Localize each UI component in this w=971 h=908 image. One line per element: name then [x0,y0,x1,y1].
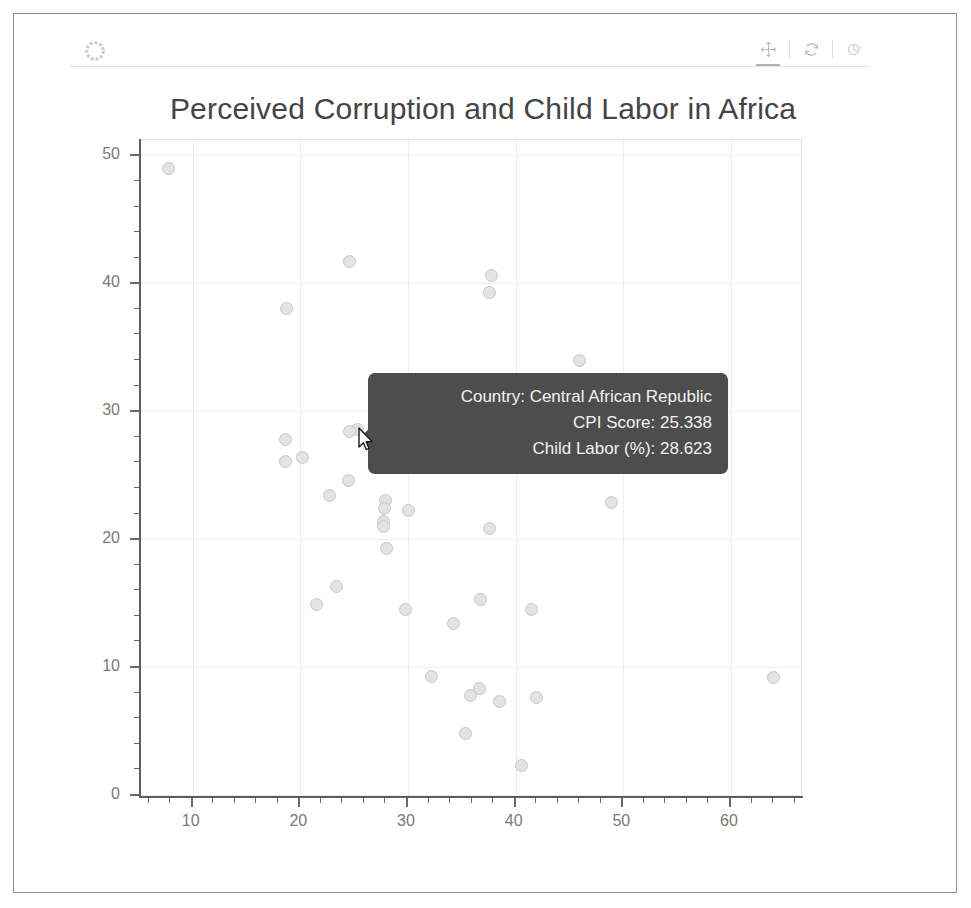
x-tick-major [406,798,408,807]
x-axis-tick-label: 50 [591,812,651,830]
y-tick-minor [134,308,139,309]
scatter-point[interactable] [483,522,496,535]
x-axis-tick-label: 10 [161,812,221,830]
move-cross-icon [759,40,778,59]
bokeh-logo-icon [84,40,106,62]
scatter-point[interactable] [279,455,292,468]
x-tick-minor [320,798,321,803]
y-axis-tick-label: 20 [80,529,120,547]
x-tick-minor [234,798,235,803]
x-tick-minor [363,798,364,803]
scatter-point[interactable] [296,451,309,464]
y-tick-minor [134,589,139,590]
scatter-point[interactable] [402,504,415,517]
save-tool-button[interactable] [838,34,870,64]
y-axis-tick-label: 10 [80,657,120,675]
toolbar-divider [70,66,870,67]
y-tick-minor [134,231,139,232]
scatter-point[interactable] [380,542,393,555]
scatter-point[interactable] [343,255,356,268]
x-tick-minor [772,798,773,803]
y-axis-labels: 01020304050 [72,139,120,797]
scatter-point[interactable] [343,425,356,438]
x-tick-minor [535,798,536,803]
pan-tool-button[interactable] [752,34,784,64]
y-tick-minor [134,333,139,334]
reset-tool-button[interactable] [795,34,827,64]
y-tick-minor [134,717,139,718]
x-tick-minor [492,798,493,803]
x-axis-tick-label: 30 [376,812,436,830]
save-disc-icon [845,40,864,59]
scatter-point[interactable] [425,670,438,683]
y-tick-minor [134,564,139,565]
y-tick-minor [134,640,139,641]
x-axis-tick-label: 60 [699,812,759,830]
y-tick-major [130,282,139,284]
gridline-vertical [300,140,301,795]
tooltip-cpi-score: CPI Score: 25.338 [384,410,712,436]
y-axis-tick-label: 30 [80,401,120,419]
x-tick-minor [600,798,601,803]
scatter-point[interactable] [525,603,538,616]
scatter-point[interactable] [573,354,586,367]
gridline-horizontal [141,283,801,284]
bokeh-toolbar [70,28,870,68]
x-tick-minor [169,798,170,803]
toolbar-separator-2 [832,40,833,58]
gridline-vertical [731,140,732,795]
y-tick-minor [134,768,139,769]
scatter-point[interactable] [280,302,293,315]
gridline-horizontal [141,539,801,540]
chart-title: Perceived Corruption and Child Labor in … [118,92,848,126]
x-axis-tick-label: 20 [268,812,328,830]
scatter-point[interactable] [447,617,460,630]
scatter-point[interactable] [515,759,528,772]
gridline-horizontal [141,667,801,668]
x-tick-major [191,798,193,807]
x-tick-minor [212,798,213,803]
x-tick-major [729,798,731,807]
x-tick-minor [428,798,429,803]
x-tick-minor [794,798,795,803]
scatter-point[interactable] [493,695,506,708]
toolbar-separator-1 [789,40,790,58]
scatter-point[interactable] [459,727,472,740]
scatter-point[interactable] [485,269,498,282]
scatter-point[interactable] [530,691,543,704]
x-tick-minor [707,798,708,803]
y-tick-major [130,794,139,796]
x-tick-minor [255,798,256,803]
scatter-point[interactable] [767,671,780,684]
x-tick-minor [578,798,579,803]
scatter-point[interactable] [310,598,323,611]
x-tick-minor [277,798,278,803]
y-tick-major [130,154,139,156]
y-tick-major [130,538,139,540]
scatter-point[interactable] [162,162,175,175]
scatter-point[interactable] [323,489,336,502]
scatter-point[interactable] [378,502,391,515]
y-tick-minor [134,487,139,488]
scatter-point[interactable] [342,474,355,487]
x-tick-minor [471,798,472,803]
x-tick-minor [686,798,687,803]
y-tick-major [130,666,139,668]
y-axis-line [139,139,141,797]
y-tick-minor [134,206,139,207]
y-axis-tick-label: 50 [80,145,120,163]
hover-tooltip: Country: Central African Republic CPI Sc… [368,373,728,474]
scatter-point[interactable] [399,603,412,616]
scatter-point[interactable] [377,520,390,533]
x-tick-minor [664,798,665,803]
gridline-vertical [193,140,194,795]
tooltip-child-labor: Child Labor (%): 28.623 [384,436,712,462]
scatter-point[interactable] [483,286,496,299]
scatter-point[interactable] [605,496,618,509]
scatter-point[interactable] [330,580,343,593]
reset-circular-icon [802,40,821,59]
x-tick-minor [557,798,558,803]
scatter-point[interactable] [464,689,477,702]
scatter-point[interactable] [474,593,487,606]
scatter-point[interactable] [279,433,292,446]
